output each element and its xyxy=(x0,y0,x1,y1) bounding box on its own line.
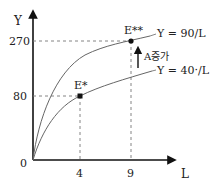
curve-upper xyxy=(33,36,150,160)
point-e-double-star-label: E** xyxy=(124,24,144,37)
origin-label: 0 xyxy=(20,157,27,170)
production-function-chart: Y L 0 270 80 4 9 E* E** Y = 90/L Y = 40·… xyxy=(0,0,217,189)
point-e-star xyxy=(78,94,83,99)
curve-lower-leader xyxy=(152,70,156,71)
y-tick-270: 270 xyxy=(9,35,30,48)
point-e-star-label: E* xyxy=(74,79,88,92)
x-axis-label: L xyxy=(181,167,189,181)
curve-upper-label: Y = 90/L xyxy=(156,27,206,40)
point-e-double-star xyxy=(128,38,133,43)
curve-lower-label: Y = 40·/L xyxy=(156,64,210,77)
y-tick-80: 80 xyxy=(13,90,27,103)
curve-lower xyxy=(33,71,152,160)
curve-upper-leader xyxy=(150,34,156,36)
shift-note-label: A증가 xyxy=(143,51,169,62)
x-tick-4: 4 xyxy=(76,167,83,180)
y-axis-label: Y xyxy=(13,14,23,28)
x-tick-9: 9 xyxy=(127,167,134,180)
